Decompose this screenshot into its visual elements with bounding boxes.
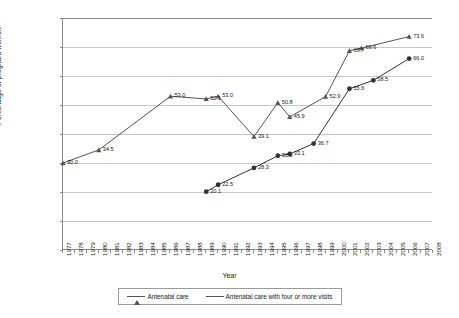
x-tick-label: 1985: [160, 242, 167, 256]
x-tick-mark: [62, 250, 63, 253]
y-axis-title: Percentage of pregnant women: [0, 27, 2, 125]
x-tick-mark: [110, 250, 111, 253]
data-point-label: 30.0: [67, 159, 78, 165]
x-tick-label: 1987: [184, 242, 191, 256]
x-tick-mark: [313, 250, 314, 253]
data-point-marker: [407, 34, 412, 39]
x-tick-mark: [98, 250, 99, 253]
data-point-marker: [275, 100, 280, 105]
data-point-label: 34.5: [103, 146, 114, 152]
data-point-label: 45.9: [294, 113, 305, 119]
data-point-label: 20.1: [210, 188, 221, 194]
data-point-marker: [311, 141, 316, 146]
x-tick-mark: [265, 250, 266, 253]
x-tick-mark: [122, 250, 123, 253]
x-tick-mark: [86, 250, 87, 253]
x-tick-mark: [229, 250, 230, 253]
x-tick-mark: [337, 250, 338, 253]
x-tick-label: 1988: [196, 242, 203, 256]
legend-circle-marker-icon: [206, 293, 224, 300]
data-point-label: 66.0: [413, 55, 424, 61]
x-tick-mark: [253, 250, 254, 253]
x-tick-mark: [241, 250, 242, 253]
x-tick-mark: [396, 250, 397, 253]
x-tick-mark: [301, 250, 302, 253]
data-point-label: 58.5: [377, 76, 388, 82]
data-point-marker: [204, 189, 209, 194]
data-point-label: 69.6: [365, 44, 376, 50]
data-point-label: 53.0: [174, 92, 185, 98]
x-tick-mark: [289, 250, 290, 253]
x-tick-mark: [146, 250, 147, 253]
x-tick-label: 1991: [232, 242, 239, 256]
x-tick-mark: [74, 250, 75, 253]
x-tick-label: 2002: [363, 242, 370, 256]
x-tick-mark: [325, 250, 326, 253]
x-tick-label: 1978: [77, 242, 84, 256]
x-tick-mark: [432, 250, 433, 253]
x-tick-label: 1977: [65, 242, 72, 256]
x-tick-label: 2004: [387, 242, 394, 256]
x-tick-label: 1997: [304, 242, 311, 256]
x-tick-label: 1993: [256, 242, 263, 256]
x-tick-label: 2007: [423, 242, 430, 256]
chart-legend: Antenatal care Antenatal care with four …: [118, 288, 342, 305]
data-point-label: 50.8: [282, 99, 293, 105]
data-point-label: 53.0: [222, 92, 233, 98]
x-tick-mark: [360, 250, 361, 253]
x-tick-mark: [408, 250, 409, 253]
x-tick-mark: [277, 250, 278, 253]
data-point-label: 28.3: [258, 164, 269, 170]
x-tick-label: 1989: [208, 242, 215, 256]
data-point-marker: [275, 153, 280, 158]
data-point-label: 36.7: [318, 140, 329, 146]
x-tick-label: 1986: [172, 242, 179, 256]
data-point-marker: [216, 182, 221, 187]
data-point-marker: [347, 86, 352, 91]
plot-area: 01020304050607080 30.034.553.052.153.039…: [62, 18, 432, 250]
data-point-marker: [371, 78, 376, 83]
x-tick-label: 2001: [351, 242, 358, 256]
x-tick-label: 2008: [435, 242, 442, 256]
x-tick-label: 1979: [89, 242, 96, 256]
x-tick-mark: [420, 250, 421, 253]
data-point-label: 52.1: [210, 95, 221, 101]
x-tick-mark: [134, 250, 135, 253]
x-tick-label: 1996: [292, 242, 299, 256]
x-tick-label: 1984: [149, 242, 156, 256]
legend-label: Antenatal care: [147, 293, 188, 300]
x-tick-mark: [193, 250, 194, 253]
data-point-label: 55.6: [353, 85, 364, 91]
x-tick-mark: [169, 250, 170, 253]
x-tick-label: 2000: [340, 242, 347, 256]
data-point-label: 32.5: [282, 152, 293, 158]
x-tick-label: 1998: [316, 242, 323, 256]
data-point-label: 22.5: [222, 181, 233, 187]
x-tick-mark: [372, 250, 373, 253]
x-tick-label: 1992: [244, 242, 251, 256]
series-lines: [63, 18, 433, 250]
data-point-label: 52.9: [330, 93, 341, 99]
legend-item-antenatal-care: Antenatal care: [127, 293, 188, 300]
x-tick-mark: [181, 250, 182, 253]
x-tick-label: 1995: [280, 242, 287, 256]
data-point-label: 33.1: [294, 150, 305, 156]
line-chart: Percentage of pregnant women 01020304050…: [0, 0, 459, 318]
x-tick-mark: [348, 250, 349, 253]
x-tick-mark: [384, 250, 385, 253]
data-point-marker: [407, 56, 412, 61]
data-point-label: 73.6: [413, 33, 424, 39]
x-tick-label: 1980: [101, 242, 108, 256]
data-point-marker: [252, 166, 257, 171]
x-axis-title: Year: [0, 272, 459, 279]
x-tick-mark: [205, 250, 206, 253]
x-tick-label: 2006: [411, 242, 418, 256]
legend-item-four-or-more-visits: Antenatal care with four or more visits: [206, 293, 333, 300]
data-point-label: 68.7: [353, 47, 364, 53]
x-tick-label: 1990: [220, 242, 227, 256]
series-line: [63, 37, 409, 163]
x-tick-mark: [217, 250, 218, 253]
legend-triangle-marker-icon: [127, 293, 145, 300]
x-tick-label: 1983: [137, 242, 144, 256]
x-tick-label: 1981: [113, 242, 120, 256]
